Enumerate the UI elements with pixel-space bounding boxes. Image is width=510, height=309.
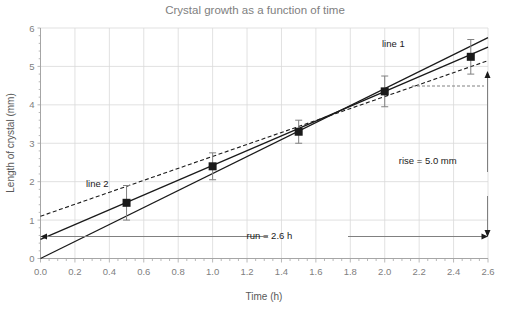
y-axis-ticks: 0123456 xyxy=(29,23,40,265)
x-tick-label: 2.4 xyxy=(447,266,460,277)
x-tick-label: 0.0 xyxy=(34,266,47,277)
x-tick-label: 0.2 xyxy=(68,266,81,277)
y-tick-label: 0 xyxy=(29,253,34,264)
y-tick-label: 5 xyxy=(29,61,34,72)
data-point-marker xyxy=(467,53,475,61)
trend-line-steep-line xyxy=(41,38,489,259)
y-axis-title: Length of crystal (mm) xyxy=(5,93,16,192)
x-tick-label: 2.2 xyxy=(413,266,426,277)
y-tick-label: 2 xyxy=(29,176,34,187)
x-tick-label: 1.8 xyxy=(344,266,357,277)
x-tick-label: 0.8 xyxy=(172,266,185,277)
x-tick-label: 1.0 xyxy=(206,266,219,277)
trend-line-line-2 xyxy=(41,61,489,217)
chart-title: Crystal growth as a function of time xyxy=(165,4,345,16)
crystal-growth-chart: Crystal growth as a function of time 012… xyxy=(0,0,510,309)
line-2-label: line 2 xyxy=(86,178,109,189)
rise-label: rise = 5.0 mm xyxy=(399,155,457,166)
x-axis-ticks: 0.00.20.40.60.81.01.21.41.61.82.02.22.42… xyxy=(34,259,495,277)
y-tick-label: 4 xyxy=(29,99,34,110)
x-tick-label: 1.4 xyxy=(275,266,288,277)
data-point-marker xyxy=(381,87,389,95)
x-tick-label: 1.6 xyxy=(309,266,322,277)
line-1-label: line 1 xyxy=(382,38,405,49)
run-label: run = 2.6 h xyxy=(247,230,293,241)
x-axis-title: Time (h) xyxy=(246,291,283,302)
y-tick-label: 3 xyxy=(29,138,34,149)
y-tick-label: 1 xyxy=(29,215,34,226)
data-point-marker xyxy=(295,128,303,136)
x-tick-label: 0.6 xyxy=(137,266,150,277)
x-tick-label: 2.6 xyxy=(481,266,494,277)
data-point-marker xyxy=(123,199,131,207)
data-point-marker xyxy=(209,162,217,170)
y-tick-label: 6 xyxy=(29,23,34,34)
x-tick-label: 1.2 xyxy=(240,266,253,277)
rise-arrow-head-top xyxy=(485,71,491,78)
x-tick-label: 0.4 xyxy=(103,266,116,277)
trend-lines xyxy=(41,38,489,259)
x-tick-label: 2.0 xyxy=(378,266,391,277)
